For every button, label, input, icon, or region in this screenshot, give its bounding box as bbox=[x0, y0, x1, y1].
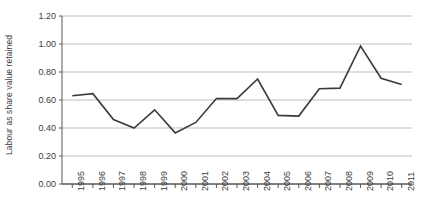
gridlines bbox=[62, 16, 412, 184]
line-chart: Labour as share value retained 0.000.200… bbox=[0, 0, 427, 220]
data-series-line bbox=[72, 46, 401, 133]
x-axis-ticks bbox=[72, 184, 401, 188]
plot-area bbox=[0, 0, 427, 220]
